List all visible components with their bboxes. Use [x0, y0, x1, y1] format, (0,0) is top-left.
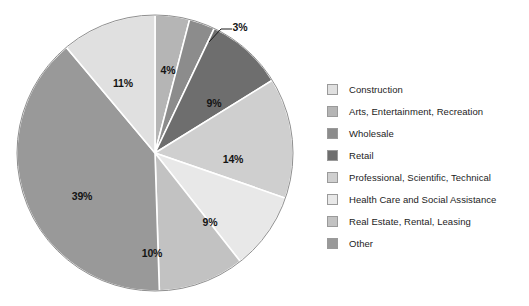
pie-slice-value-label: 3%	[233, 21, 248, 33]
legend-swatch-icon	[327, 150, 338, 161]
legend-swatch-icon	[327, 172, 338, 183]
pie-slice-value-label: 10%	[142, 247, 163, 259]
pie-slice-value-label: 4%	[161, 64, 176, 76]
pie-slice-value-label: 9%	[203, 216, 218, 228]
chart-legend: ConstructionArts, Entertainment, Recreat…	[327, 78, 527, 254]
legend-swatch-icon	[327, 238, 338, 249]
legend-item[interactable]: Professional, Scientific, Technical	[327, 166, 527, 188]
pie-slice-value-label: 9%	[207, 97, 222, 109]
legend-item-label: Construction	[349, 84, 403, 95]
legend-item-label: Real Estate, Rental, Leasing	[349, 216, 471, 227]
pie-svg	[0, 0, 310, 306]
legend-item[interactable]: Health Care and Social Assistance	[327, 188, 527, 210]
pie-chart-figure: 4%3%9%14%9%10%39%11% ConstructionArts, E…	[0, 0, 529, 306]
legend-item-label: Arts, Entertainment, Recreation	[349, 106, 483, 117]
legend-swatch-icon	[327, 106, 338, 117]
pie-slice-value-label: 14%	[223, 153, 244, 165]
legend-item-label: Health Care and Social Assistance	[349, 194, 496, 205]
legend-swatch-icon	[327, 128, 338, 139]
legend-swatch-icon	[327, 194, 338, 205]
pie-slice-value-label: 11%	[113, 77, 133, 89]
legend-item-label: Professional, Scientific, Technical	[349, 172, 491, 183]
legend-item-label: Wholesale	[349, 128, 394, 139]
legend-item[interactable]: Retail	[327, 144, 527, 166]
legend-item-label: Retail	[349, 150, 374, 161]
legend-item[interactable]: Construction	[327, 78, 527, 100]
pie-slice-value-label: 39%	[72, 190, 93, 202]
legend-swatch-icon	[327, 84, 338, 95]
legend-item[interactable]: Real Estate, Rental, Leasing	[327, 210, 527, 232]
legend-item[interactable]: Other	[327, 232, 527, 254]
legend-item-label: Other	[349, 238, 373, 249]
legend-item[interactable]: Arts, Entertainment, Recreation	[327, 100, 527, 122]
legend-item[interactable]: Wholesale	[327, 122, 527, 144]
pie-plot-area: 4%3%9%14%9%10%39%11%	[0, 0, 310, 306]
legend-swatch-icon	[327, 216, 338, 227]
